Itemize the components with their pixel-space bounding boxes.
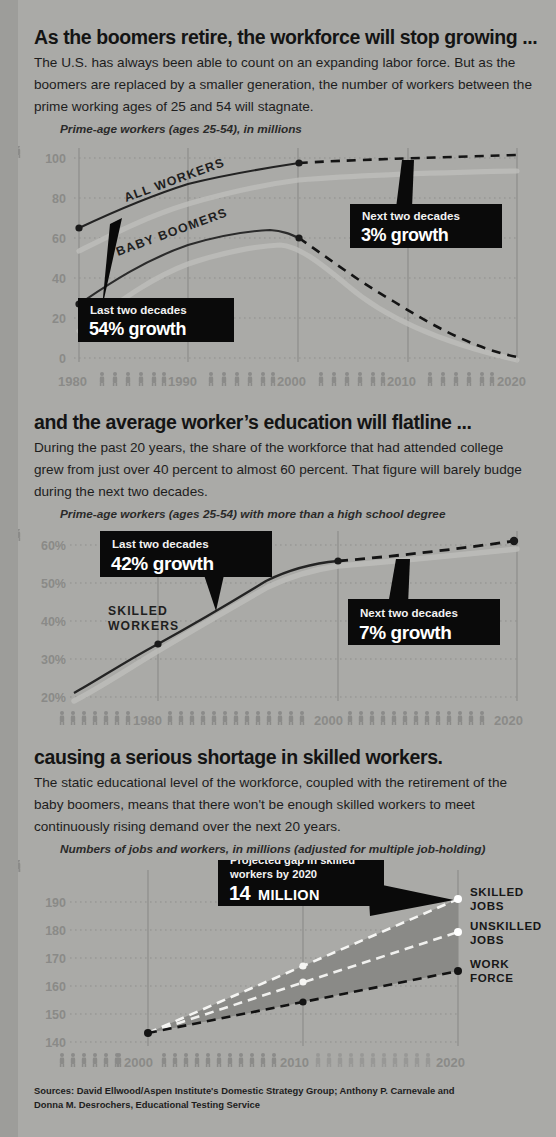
series-label-skilled-workers-line1: SKILLED — [108, 604, 168, 618]
section-2-body: During the past 20 years, the share of t… — [34, 437, 534, 503]
svg-text:40: 40 — [52, 272, 66, 286]
legend-unskilled-jobs-line2: JOBS — [470, 933, 504, 946]
section-3-headline: causing a serious shortage in skilled wo… — [34, 746, 544, 768]
y-axis-labels: 100 80 60 40 20 0 — [45, 152, 66, 366]
person-pictograms — [18, 146, 494, 386]
y-label-60: 60% — [41, 539, 66, 553]
section-3-body: The static educational level of the work… — [34, 772, 534, 838]
x-label-2020: 2020 — [436, 1055, 465, 1070]
section-1-headline: As the boomers retire, the workforce wil… — [34, 26, 544, 48]
chart-legend: SKILLED JOBS UNSKILLED JOBS WORK FORCE — [470, 885, 542, 984]
section-3-caption: Numbers of jobs and workers, in millions… — [60, 842, 485, 856]
callout-1-value: 54% growth — [89, 319, 186, 339]
chart-skilled-gap: 190 180 170 160 150 140 — [18, 860, 556, 1070]
y-label-150: 150 — [45, 1008, 66, 1022]
x-label-2000: 2000 — [314, 713, 343, 728]
svg-text:100: 100 — [45, 152, 66, 166]
callout-3-label: Last two decades — [112, 537, 209, 550]
y-label-160: 160 — [45, 980, 66, 994]
section-1-body: The U.S. has always been able to count o… — [34, 52, 534, 118]
x-label-1980: 1980 — [133, 713, 162, 728]
callout-4-label: Next two decades — [360, 606, 458, 619]
x-label-1990: 1990 — [168, 374, 197, 389]
chart-workforce: 100 80 60 40 20 0 — [18, 146, 556, 401]
callout-5-value-unit: MILLION — [258, 887, 320, 903]
x-label-2000: 2000 — [124, 1055, 153, 1070]
callout-3-value: 42% growth — [111, 553, 214, 574]
y-label-190: 190 — [45, 896, 66, 910]
y-label-180: 180 — [45, 924, 66, 938]
y-axis-labels: 190 180 170 160 150 140 — [45, 896, 66, 1050]
sources-block: Sources: David Ellwood/Aspen Institute's… — [34, 1084, 534, 1111]
x-label-2010: 2010 — [387, 374, 416, 389]
source-line-2: Donna M. Desrochers, Educational Testing… — [34, 1098, 534, 1112]
page-left-margin — [0, 0, 18, 1137]
section-1-caption: Prime-age workers (ages 25-54), in milli… — [60, 122, 302, 136]
y-label-140: 140 — [45, 1036, 66, 1050]
callout-2-label: Next two decades — [362, 209, 460, 222]
y-label-20: 20% — [41, 691, 66, 705]
x-label-2020: 2020 — [494, 713, 523, 728]
section-2-headline: and the average worker’s education will … — [34, 411, 544, 433]
legend-work-force-line1: WORK — [470, 957, 509, 970]
x-label-1980: 1980 — [58, 374, 87, 389]
y-label-40: 40% — [41, 615, 66, 629]
series-label-skilled-workers-line2: WORKERS — [108, 619, 179, 633]
svg-text:80: 80 — [52, 192, 66, 206]
x-label-2020: 2020 — [497, 374, 526, 389]
legend-skilled-jobs-line2: JOBS — [470, 899, 504, 912]
legend-work-force-line2: FORCE — [470, 971, 514, 984]
chart-education: 60% 50% 40% 30% 20% — [18, 529, 556, 729]
x-label-2010: 2010 — [280, 1055, 309, 1070]
callout-projected-gap: Projected gap in skilled workers by 2020… — [218, 860, 454, 916]
callout-2-value: 3% growth — [361, 225, 448, 245]
section-2-caption: Prime-age workers (ages 25-54) with more… — [60, 507, 445, 521]
svg-text:0: 0 — [59, 352, 66, 366]
callout-5-label-line2: workers by 2020 — [229, 868, 317, 880]
y-label-50: 50% — [41, 577, 66, 591]
x-label-2000: 2000 — [277, 374, 306, 389]
callout-4-value: 7% growth — [359, 622, 451, 643]
legend-skilled-jobs-line1: SKILLED — [470, 885, 524, 898]
legend-unskilled-jobs-line1: UNSKILLED — [470, 919, 542, 932]
y-axis-labels: 60% 50% 40% 30% 20% — [41, 539, 66, 705]
source-line-1: Sources: David Ellwood/Aspen Institute's… — [34, 1084, 534, 1098]
callout-5-value-number: 14 — [229, 882, 252, 904]
callout-5-label-line1: Projected gap in skilled — [230, 860, 355, 866]
callout-next-two-decades-7: Next two decades 7% growth — [348, 559, 500, 645]
y-label-30: 30% — [41, 653, 66, 667]
infographic-page: As the boomers retire, the workforce wil… — [0, 0, 556, 1137]
callout-1-label: Last two decades — [90, 303, 187, 316]
y-label-170: 170 — [45, 952, 66, 966]
svg-text:60: 60 — [52, 232, 66, 246]
svg-text:20: 20 — [52, 312, 66, 326]
